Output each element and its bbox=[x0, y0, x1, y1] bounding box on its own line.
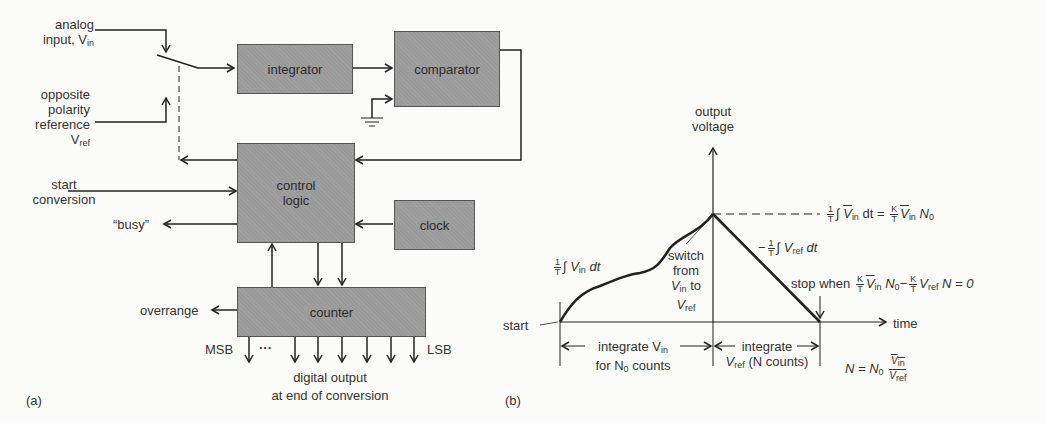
panel-a-label: (a) bbox=[26, 393, 42, 408]
integrator-block: integrator bbox=[237, 44, 353, 94]
phase-1-label: integrate Vin for N0 counts bbox=[585, 339, 681, 377]
start-conversion-label: start conversion bbox=[26, 177, 102, 207]
analog-input-label: analog input, Vin bbox=[30, 17, 94, 51]
switch-label: switch from Vin to Vref bbox=[663, 248, 709, 316]
truncated-caption: ​ bbox=[12, 414, 912, 423]
phase-2-label: integrate Vref (N counts) bbox=[716, 339, 818, 373]
result-equation: N = N0 VinVref bbox=[845, 355, 908, 384]
analog-input-wire bbox=[95, 30, 166, 52]
overrange-label: overrange bbox=[140, 303, 199, 318]
peak-equation: 1T∫ Vin dt = KTVin N0 bbox=[825, 205, 934, 225]
ramp-up-equation: 1T∫ Vin dt bbox=[552, 258, 600, 278]
start-label: start bbox=[503, 318, 528, 333]
lsb-label: LSB bbox=[427, 342, 452, 357]
reference-label: opposite polarity reference Vref bbox=[10, 87, 90, 151]
control-logic-block: control logic bbox=[237, 143, 355, 243]
comparator-block: comparator bbox=[394, 31, 500, 107]
ramp-down-equation: −1T∫ Vref dt bbox=[758, 239, 817, 259]
control-logic-label-1: control bbox=[276, 178, 315, 193]
reference-wire bbox=[95, 98, 166, 122]
switch-blade bbox=[157, 55, 234, 68]
control-logic-label-2: logic bbox=[283, 193, 310, 208]
ramp-down-line bbox=[713, 214, 820, 322]
counter-block: counter bbox=[237, 287, 426, 337]
busy-label: “busy” bbox=[113, 217, 149, 232]
x-axis-label: time bbox=[893, 316, 918, 331]
clock-block: clock bbox=[394, 200, 475, 250]
ellipsis-label: ··· bbox=[259, 340, 272, 355]
y-axis-label: output voltage bbox=[678, 104, 748, 134]
digital-output-label: digital output at end of conversion bbox=[255, 370, 405, 403]
panel-b-label: (b) bbox=[505, 393, 521, 408]
stop-condition: stop when KTVin N0−KTVref N = 0 bbox=[791, 275, 973, 295]
msb-label: MSB bbox=[205, 342, 233, 357]
